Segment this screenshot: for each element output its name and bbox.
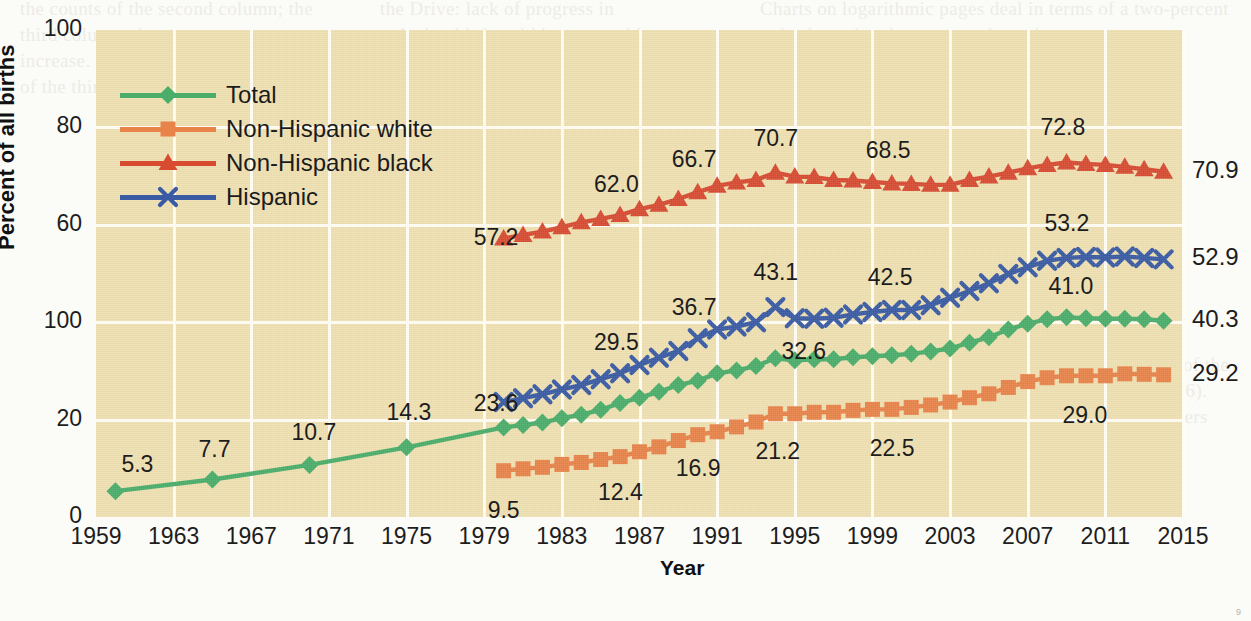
- data-point-label: 57.2: [474, 224, 519, 251]
- x-tick-label: 1995: [750, 523, 840, 550]
- data-point-marker: [159, 154, 178, 171]
- x-tick-label: 2015: [1138, 523, 1228, 550]
- data-point-label: 36.7: [672, 294, 717, 321]
- x-tick-label: 1963: [129, 523, 219, 550]
- data-point-marker: [846, 403, 861, 418]
- data-point-marker: [960, 334, 978, 352]
- x-tick-label: 1959: [51, 523, 141, 550]
- data-point-label: 16.9: [676, 455, 721, 482]
- data-point-marker: [825, 350, 843, 368]
- x-tick-label: 1987: [595, 523, 685, 550]
- x-tick-label: 1999: [827, 523, 917, 550]
- x-axis-title: Year: [660, 556, 704, 580]
- data-point-marker: [613, 449, 628, 464]
- data-point-label: 62.0: [594, 171, 639, 198]
- legend-label: Hispanic: [226, 183, 318, 211]
- data-point-marker: [495, 418, 513, 436]
- data-point-marker: [1001, 380, 1016, 395]
- data-point-marker: [999, 321, 1017, 339]
- legend-swatch: [120, 182, 216, 212]
- data-point-marker: [767, 299, 783, 315]
- data-point-marker: [1040, 370, 1055, 385]
- legend: TotalNon-Hispanic whiteNon-Hispanic blac…: [120, 78, 433, 214]
- data-point-marker: [1038, 310, 1056, 328]
- data-point-marker: [572, 406, 590, 424]
- series-end-label: 70.9: [1192, 156, 1239, 184]
- data-point-marker: [1116, 310, 1134, 328]
- legend-item-non-hispanic-white[interactable]: Non-Hispanic white: [120, 112, 433, 146]
- data-point-marker: [533, 414, 551, 432]
- data-point-marker: [844, 348, 862, 366]
- legend-marker-square-icon: [120, 114, 216, 144]
- series-end-label: 52.9: [1192, 243, 1239, 271]
- data-point-label: 41.0: [1049, 273, 1094, 300]
- data-point-label: 9.5: [488, 497, 520, 524]
- data-point-label: 14.3: [387, 399, 432, 426]
- data-point-label: 43.1: [753, 259, 798, 286]
- legend-item-hispanic[interactable]: Hispanic: [120, 180, 433, 214]
- legend-label: Total: [226, 81, 277, 109]
- legend-label: Non-Hispanic black: [226, 149, 433, 177]
- data-point-marker: [941, 339, 959, 357]
- x-tick-label: 1991: [672, 523, 762, 550]
- data-point-marker: [203, 471, 221, 489]
- data-point-marker: [301, 456, 319, 474]
- data-point-marker: [1020, 374, 1035, 389]
- x-tick-label: 1983: [517, 523, 607, 550]
- data-point-label: 66.7: [672, 146, 717, 173]
- data-point-marker: [807, 405, 822, 420]
- data-point-marker: [160, 189, 176, 205]
- data-point-marker: [710, 424, 725, 439]
- data-point-marker: [106, 482, 124, 500]
- data-point-marker: [1098, 368, 1113, 383]
- data-point-marker: [708, 364, 726, 382]
- data-point-marker: [592, 401, 610, 419]
- data-point-marker: [729, 419, 744, 434]
- data-point-marker: [962, 390, 977, 405]
- x-tick-label: 2011: [1060, 523, 1150, 550]
- data-point-marker: [1077, 309, 1095, 327]
- data-point-marker: [904, 400, 919, 415]
- data-point-marker: [514, 416, 532, 434]
- data-point-label: 68.5: [866, 137, 911, 164]
- data-point-marker: [632, 444, 647, 459]
- data-point-marker: [689, 372, 707, 390]
- figure-page: the counts of the second column; the thi…: [0, 0, 1251, 621]
- data-point-label: 10.7: [292, 419, 337, 446]
- data-point-marker: [671, 433, 686, 448]
- data-point-marker: [981, 386, 996, 401]
- data-point-label: 23.6: [474, 390, 519, 417]
- data-point-label: 29.5: [594, 329, 639, 356]
- data-point-marker: [980, 328, 998, 346]
- legend-swatch: [120, 114, 216, 144]
- data-point-marker: [1137, 367, 1152, 382]
- y-tick-label: 80: [12, 112, 82, 139]
- series-end-label: 29.2: [1192, 359, 1239, 387]
- data-point-marker: [883, 346, 901, 364]
- data-point-marker: [747, 357, 765, 375]
- data-point-marker: [159, 86, 177, 104]
- data-point-marker: [1117, 366, 1132, 381]
- data-point-marker: [611, 394, 629, 412]
- data-point-marker: [161, 122, 176, 137]
- x-tick-label: 1971: [284, 523, 374, 550]
- data-point-marker: [669, 376, 687, 394]
- data-point-marker: [923, 397, 938, 412]
- data-point-marker: [574, 455, 589, 470]
- series-total: [106, 308, 1172, 500]
- data-point-marker: [398, 438, 416, 456]
- data-point-marker: [516, 461, 531, 476]
- data-point-marker: [631, 389, 649, 407]
- legend-item-total[interactable]: Total: [120, 78, 433, 112]
- y-tick-label: 60: [12, 210, 82, 237]
- data-point-marker: [766, 163, 785, 180]
- data-point-marker: [943, 395, 958, 410]
- data-point-label: 21.2: [755, 438, 800, 465]
- data-point-marker: [902, 345, 920, 363]
- data-point-label: 70.7: [753, 125, 798, 152]
- legend-item-non-hispanic-black[interactable]: Non-Hispanic black: [120, 146, 433, 180]
- y-tick-label: 100: [12, 307, 82, 334]
- data-point-marker: [748, 415, 763, 430]
- data-point-marker: [496, 463, 511, 478]
- data-point-marker: [863, 347, 881, 365]
